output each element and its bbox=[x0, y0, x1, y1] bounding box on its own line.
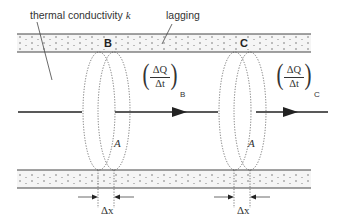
section-b-label: B bbox=[103, 38, 113, 49]
flow-b-numerator: ΔQ bbox=[148, 64, 172, 75]
heat-flow-line bbox=[18, 107, 328, 117]
right-paren: ) bbox=[305, 59, 312, 89]
flow-c-subscript: C bbox=[314, 90, 320, 99]
arrowhead-b bbox=[172, 107, 187, 117]
arrowhead-c bbox=[283, 107, 298, 117]
conductivity-label-text: thermal conductivity bbox=[30, 9, 126, 21]
lagging-label: lagging bbox=[166, 10, 200, 21]
diagram-canvas bbox=[0, 0, 343, 224]
flow-c-numerator: ΔQ bbox=[282, 64, 306, 75]
top-lagging-band bbox=[17, 34, 311, 52]
dx-arrows-c bbox=[214, 195, 270, 200]
section-c-label: C bbox=[239, 38, 249, 49]
flow-c-denominator: Δt bbox=[282, 78, 306, 89]
area-b-label: A bbox=[114, 138, 121, 149]
conductivity-symbol: k bbox=[126, 9, 131, 21]
heat-flow-rate-b: ( ΔQ Δt ) B bbox=[142, 62, 192, 102]
heat-flow-rate-c: ( ΔQ Δt ) C bbox=[276, 62, 326, 102]
conductivity-label: thermal conductivity k bbox=[30, 10, 131, 21]
dx-arrows-b bbox=[78, 195, 134, 200]
right-paren: ) bbox=[171, 59, 178, 89]
area-c-label: A bbox=[248, 138, 255, 149]
dx-b-label: Δx bbox=[101, 205, 114, 216]
bottom-lagging-band bbox=[17, 170, 311, 188]
flow-b-denominator: Δt bbox=[148, 78, 172, 89]
dx-c-label: Δx bbox=[237, 205, 250, 216]
flow-b-subscript: B bbox=[180, 90, 185, 99]
